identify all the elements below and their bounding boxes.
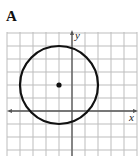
center-point: [56, 82, 61, 87]
coordinate-plane: x y: [0, 0, 140, 156]
y-axis-label: y: [74, 29, 80, 41]
x-axis-left-arrow-icon: [7, 109, 12, 113]
x-axis-label: x: [128, 111, 134, 123]
